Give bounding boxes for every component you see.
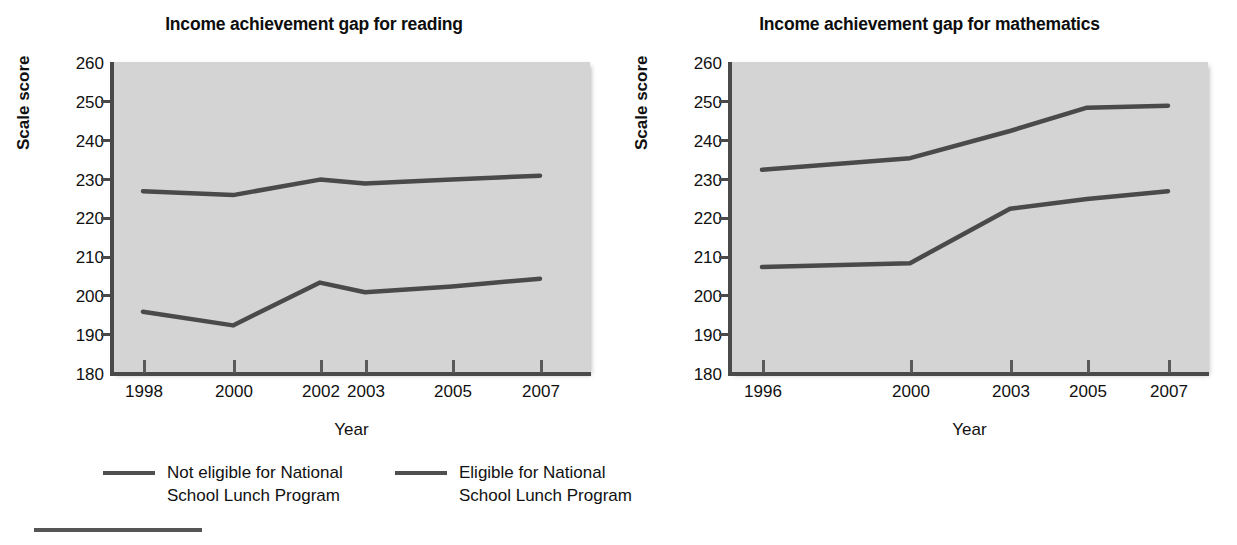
y-tick-label: 230 bbox=[694, 172, 722, 189]
chart-legend: Not eligible for National School Lunch P… bbox=[0, 462, 1237, 518]
series-line-not-eligible bbox=[143, 176, 540, 195]
series-line-not-eligible bbox=[762, 106, 1168, 170]
x-tick-label: 2000 bbox=[215, 382, 253, 402]
y-tick-label: 190 bbox=[694, 327, 722, 344]
y-tick-label: 220 bbox=[694, 210, 722, 227]
y-tick bbox=[101, 294, 111, 297]
x-tick-label: 2002 bbox=[302, 382, 340, 402]
figure-income-achievement-gap: Income achievement gap for reading Scale… bbox=[0, 0, 1237, 545]
y-tick-label: 180 bbox=[76, 366, 104, 383]
x-tick-label: 2003 bbox=[992, 382, 1030, 402]
x-tick-label: 2005 bbox=[1069, 382, 1107, 402]
chart-panel-reading: Income achievement gap for reading Scale… bbox=[0, 0, 620, 450]
y-tick-label: 250 bbox=[694, 94, 722, 111]
y-tick bbox=[101, 100, 111, 103]
x-tick-label: 2003 bbox=[347, 382, 385, 402]
legend-item-eligible: Eligible for National School Lunch Progr… bbox=[395, 462, 632, 507]
y-tick bbox=[719, 256, 729, 259]
y-tick-label: 180 bbox=[694, 366, 722, 383]
y-tick-label: 190 bbox=[76, 327, 104, 344]
footnote-rule bbox=[34, 528, 202, 532]
legend-item-not-eligible: Not eligible for National School Lunch P… bbox=[103, 462, 343, 507]
y-tick bbox=[101, 256, 111, 259]
y-tick-label: 200 bbox=[76, 288, 104, 305]
y-tick-label: 220 bbox=[76, 210, 104, 227]
y-tick-label: 210 bbox=[76, 249, 104, 266]
x-axis-title-reading: Year bbox=[113, 420, 590, 440]
y-tick-label: 240 bbox=[76, 133, 104, 150]
y-tick-labels-reading: 260 250 240 230 220 210 200 190 180 bbox=[52, 62, 104, 373]
series-lines-mathematics bbox=[731, 62, 1208, 373]
chart-title-reading: Income achievement gap for reading bbox=[4, 14, 624, 35]
chart-panel-mathematics: Income achievement gap for mathematics S… bbox=[618, 0, 1237, 450]
y-tick bbox=[719, 178, 729, 181]
legend-label: Eligible for National School Lunch Progr… bbox=[459, 462, 632, 507]
y-tick bbox=[719, 100, 729, 103]
series-line-eligible bbox=[762, 191, 1168, 267]
x-tick-label: 2007 bbox=[522, 382, 560, 402]
y-axis-title-reading: Scale score bbox=[14, 55, 34, 150]
y-axis-title-mathematics: Scale score bbox=[632, 55, 652, 150]
x-axis-title-mathematics: Year bbox=[731, 420, 1208, 440]
x-tick-label: 2005 bbox=[434, 382, 472, 402]
series-line-eligible bbox=[143, 279, 540, 326]
y-tick bbox=[101, 217, 111, 220]
y-tick-labels-mathematics: 260 250 240 230 220 210 200 190 180 bbox=[670, 62, 722, 373]
plot-area-mathematics bbox=[731, 62, 1208, 373]
y-tick-label: 260 bbox=[694, 55, 722, 72]
y-tick bbox=[719, 333, 729, 336]
x-tick-label: 1998 bbox=[125, 382, 163, 402]
y-tick bbox=[719, 139, 729, 142]
y-tick-label: 250 bbox=[76, 94, 104, 111]
legend-line-swatch-icon bbox=[395, 471, 447, 475]
chart-title-mathematics: Income achievement gap for mathematics bbox=[620, 14, 1237, 35]
legend-label: Not eligible for National School Lunch P… bbox=[167, 462, 343, 507]
y-tick bbox=[101, 139, 111, 142]
series-lines-reading bbox=[113, 62, 590, 373]
x-tick-label: 2007 bbox=[1150, 382, 1188, 402]
legend-line-swatch-icon bbox=[103, 471, 155, 475]
y-tick bbox=[101, 333, 111, 336]
y-tick-label: 210 bbox=[694, 249, 722, 266]
plot-area-reading bbox=[113, 62, 590, 373]
x-tick-label: 1996 bbox=[744, 382, 782, 402]
y-tick bbox=[719, 294, 729, 297]
y-tick bbox=[719, 217, 729, 220]
x-tick-label: 2000 bbox=[892, 382, 930, 402]
y-tick-label: 200 bbox=[694, 288, 722, 305]
y-tick bbox=[101, 178, 111, 181]
y-tick-label: 240 bbox=[694, 133, 722, 150]
y-tick-label: 230 bbox=[76, 172, 104, 189]
y-tick-label: 260 bbox=[76, 55, 104, 72]
